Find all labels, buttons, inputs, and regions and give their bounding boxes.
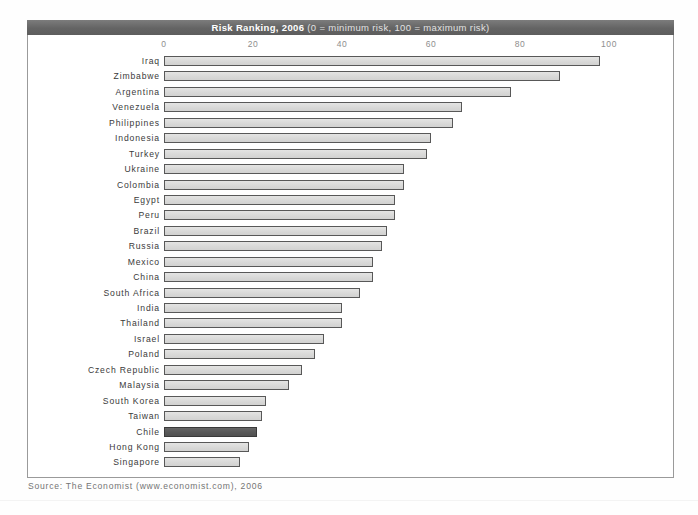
bar-row: Ukraine <box>27 162 674 177</box>
bar-row: China <box>27 270 674 285</box>
category-label: Mexico <box>128 255 160 270</box>
bar-row: Philippines <box>27 116 674 131</box>
category-label: Indonesia <box>115 131 160 146</box>
category-label: Malaysia <box>119 378 160 393</box>
bar-rows: IraqZimbabweArgentinaVenezuelaPhilippine… <box>27 54 674 471</box>
category-label: Hong Kong <box>109 440 160 455</box>
category-label: Thailand <box>120 316 160 331</box>
category-label: Argentina <box>116 85 160 100</box>
bar-row: Peru <box>27 208 674 223</box>
bar-china <box>164 272 373 282</box>
bar-row: Colombia <box>27 178 674 193</box>
category-label: Poland <box>128 347 160 362</box>
category-label: Philippines <box>109 116 160 131</box>
x-tick-label-0: 0 <box>161 39 166 49</box>
category-label: Brazil <box>133 224 160 239</box>
plot-area: 020406080100 IraqZimbabweArgentinaVenezu… <box>27 35 674 478</box>
category-label: Peru <box>138 208 160 223</box>
x-tick-label-20: 20 <box>248 39 259 49</box>
category-label: Iraq <box>142 54 160 69</box>
category-label: Czech Republic <box>88 363 160 378</box>
source-caption: Source: The Economist (www.economist.com… <box>28 481 263 491</box>
bar-row: Israel <box>27 332 674 347</box>
x-axis-tick-labels: 020406080100 <box>27 39 674 53</box>
x-tick-label-100: 100 <box>601 39 617 49</box>
category-label: India <box>137 301 160 316</box>
bar-row: Malaysia <box>27 378 674 393</box>
bar-row: Czech Republic <box>27 363 674 378</box>
category-label: Zimbabwe <box>114 69 160 84</box>
bar-row: Singapore <box>27 455 674 470</box>
bar-malaysia <box>164 380 289 390</box>
bar-row: Iraq <box>27 54 674 69</box>
category-label: South Korea <box>103 394 160 409</box>
chart-title-banner: Risk Ranking, 2006 (0 = minimum risk, 10… <box>27 20 674 35</box>
bar-hong-kong <box>164 442 249 452</box>
category-label: Venezuela <box>112 100 160 115</box>
category-label: Israel <box>134 332 160 347</box>
category-label: Colombia <box>117 178 160 193</box>
bar-row: Zimbabwe <box>27 69 674 84</box>
chart-title: Risk Ranking, 2006 (0 = minimum risk, 10… <box>27 20 674 35</box>
x-tick-label-80: 80 <box>515 39 526 49</box>
bar-philippines <box>164 118 453 128</box>
bar-row: Poland <box>27 347 674 362</box>
bar-argentina <box>164 87 511 97</box>
bar-row: Argentina <box>27 85 674 100</box>
bar-row: South Korea <box>27 394 674 409</box>
bar-venezuela <box>164 102 462 112</box>
bar-poland <box>164 349 315 359</box>
bar-zimbabwe <box>164 71 560 81</box>
category-label: Russia <box>129 239 160 254</box>
bar-israel <box>164 334 324 344</box>
bar-mexico <box>164 257 373 267</box>
bar-chile <box>164 427 257 437</box>
bar-colombia <box>164 180 404 190</box>
bar-czech-republic <box>164 365 302 375</box>
bar-turkey <box>164 149 427 159</box>
bar-row: Mexico <box>27 255 674 270</box>
category-label: China <box>133 270 160 285</box>
category-label: Egypt <box>134 193 160 208</box>
screenshot-page: Risk Ranking, 2006 (0 = minimum risk, 10… <box>0 0 698 515</box>
x-tick-label-40: 40 <box>337 39 348 49</box>
bar-singapore <box>164 457 240 467</box>
bar-row: Turkey <box>27 147 674 162</box>
category-label: Singapore <box>113 455 160 470</box>
bar-south-africa <box>164 288 360 298</box>
bar-south-korea <box>164 396 266 406</box>
bar-row: Thailand <box>27 316 674 331</box>
bar-row: India <box>27 301 674 316</box>
bar-row: Hong Kong <box>27 440 674 455</box>
bar-row: Russia <box>27 239 674 254</box>
bar-row: Venezuela <box>27 100 674 115</box>
category-label: South Africa <box>103 286 160 301</box>
bar-row: Brazil <box>27 224 674 239</box>
bar-thailand <box>164 318 342 328</box>
bar-row: Indonesia <box>27 131 674 146</box>
category-label: Chile <box>136 425 160 440</box>
category-label: Taiwan <box>128 409 160 424</box>
chart-title-main: Risk Ranking, 2006 <box>211 22 304 33</box>
bar-russia <box>164 241 382 251</box>
category-label: Turkey <box>129 147 160 162</box>
bar-peru <box>164 210 395 220</box>
bar-india <box>164 303 342 313</box>
bar-row: Egypt <box>27 193 674 208</box>
category-label: Ukraine <box>124 162 160 177</box>
bar-row: Taiwan <box>27 409 674 424</box>
bar-brazil <box>164 226 387 236</box>
bar-iraq <box>164 56 600 66</box>
chart-title-subtitle: (0 = minimum risk, 100 = maximum risk) <box>307 22 489 33</box>
bar-row: South Africa <box>27 286 674 301</box>
x-tick-label-60: 60 <box>426 39 437 49</box>
bar-indonesia <box>164 133 431 143</box>
paper-edge-line <box>0 500 698 501</box>
bar-egypt <box>164 195 395 205</box>
bar-row: Chile <box>27 425 674 440</box>
bar-ukraine <box>164 164 404 174</box>
bar-taiwan <box>164 411 262 421</box>
